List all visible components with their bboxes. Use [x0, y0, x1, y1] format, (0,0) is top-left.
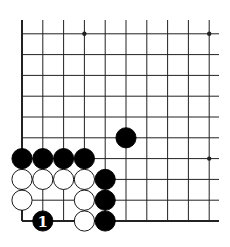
white-stone: [12, 190, 32, 210]
move-number-label: 1: [38, 213, 48, 231]
white-stone: [74, 169, 94, 189]
black-stone: [54, 149, 74, 169]
board-grid: [22, 20, 219, 221]
black-stone: [95, 169, 115, 189]
star-point-icon: [207, 32, 211, 36]
star-point-icon: [207, 156, 211, 160]
black-stone: [116, 128, 136, 148]
black-stone: [12, 149, 32, 169]
white-stone: [54, 169, 74, 189]
black-stone: 1: [33, 211, 53, 231]
white-stone: [74, 190, 94, 210]
black-stone: [95, 190, 115, 210]
black-stone: [95, 211, 115, 231]
go-board: 1: [0, 0, 230, 247]
black-stone: [74, 149, 94, 169]
black-stone: [33, 149, 53, 169]
star-point-icon: [82, 32, 86, 36]
white-stone: [33, 169, 53, 189]
white-stone: [12, 169, 32, 189]
white-stone: [74, 211, 94, 231]
